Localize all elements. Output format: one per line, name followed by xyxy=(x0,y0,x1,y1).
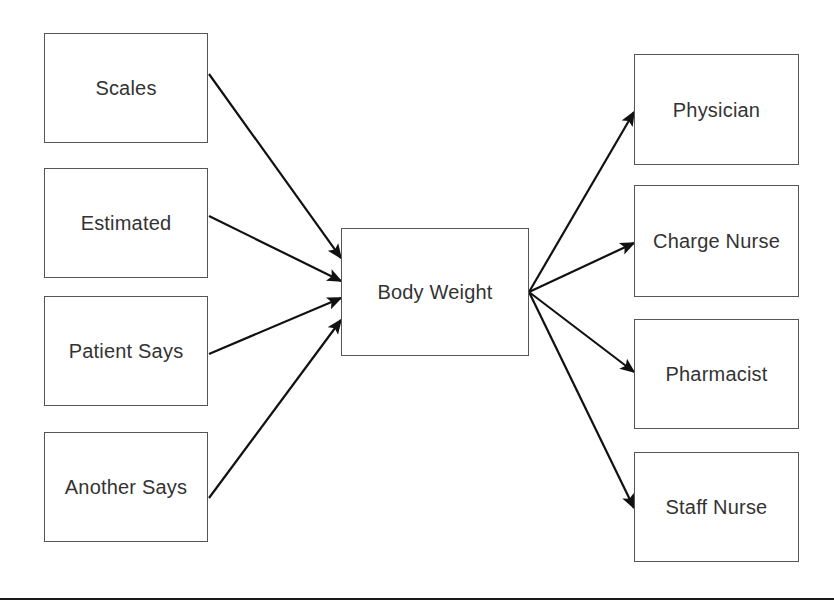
node-physician[interactable]: Physician xyxy=(634,54,799,165)
node-another-says[interactable]: Another Says xyxy=(44,432,208,542)
footer-divider xyxy=(0,598,834,600)
node-patient-says[interactable]: Patient Says xyxy=(44,296,208,406)
arrow-scales-to-body-weight xyxy=(209,74,341,258)
node-staff-nurse[interactable]: Staff Nurse xyxy=(634,452,799,562)
node-label-patient-says: Patient Says xyxy=(69,340,184,362)
node-label-another-says: Another Says xyxy=(65,476,187,498)
node-label-estimated: Estimated xyxy=(81,212,172,234)
arrow-body-weight-to-charge-nurse xyxy=(529,243,634,292)
arrow-estimated-to-body-weight xyxy=(209,216,341,281)
arrow-body-weight-to-staff-nurse xyxy=(529,292,634,508)
arrow-body-weight-to-pharmacist xyxy=(529,292,634,372)
incoming-arrows xyxy=(209,74,341,498)
diagram-canvas: Scales Estimated Patient Says Another Sa… xyxy=(0,0,834,609)
node-label-physician: Physician xyxy=(673,99,760,121)
node-label-scales: Scales xyxy=(95,77,156,99)
outgoing-arrows xyxy=(529,112,634,508)
node-label-body-weight: Body Weight xyxy=(377,281,492,303)
arrow-body-weight-to-physician xyxy=(529,112,634,292)
node-label-charge-nurse: Charge Nurse xyxy=(653,230,780,252)
node-body-weight[interactable]: Body Weight xyxy=(341,228,529,356)
node-label-pharmacist: Pharmacist xyxy=(665,363,767,385)
node-estimated[interactable]: Estimated xyxy=(44,168,208,278)
node-charge-nurse[interactable]: Charge Nurse xyxy=(634,185,799,297)
node-label-staff-nurse: Staff Nurse xyxy=(666,496,768,518)
node-pharmacist[interactable]: Pharmacist xyxy=(634,319,799,429)
node-scales[interactable]: Scales xyxy=(44,33,208,143)
